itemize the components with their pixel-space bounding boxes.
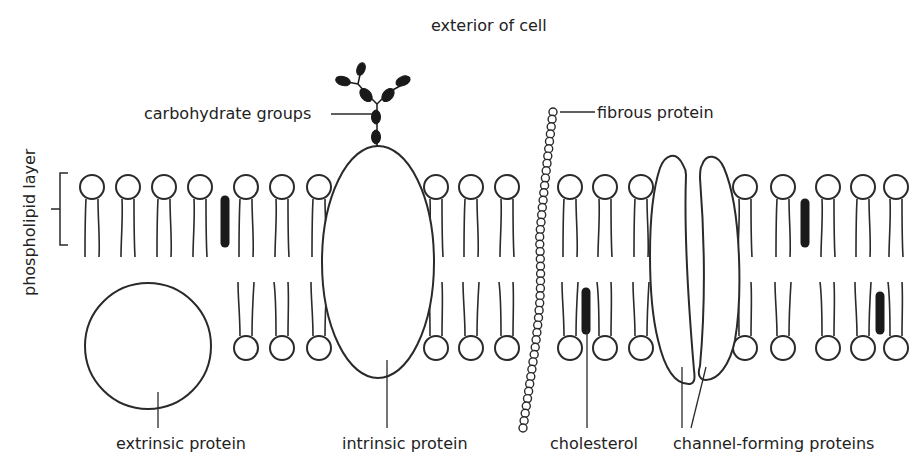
phospholipid-molecule <box>629 282 653 360</box>
extrinsic-protein-shape <box>85 283 211 409</box>
label-fibrous-protein: fibrous protein <box>597 103 714 123</box>
carbohydrate-groups-shape <box>335 62 412 146</box>
phospholipid-molecule <box>459 282 483 360</box>
phospholipid-molecule <box>851 175 875 257</box>
phospholipid-molecule <box>152 175 176 257</box>
phospholipid-molecule <box>495 175 519 257</box>
phospholipid-molecule <box>270 175 294 257</box>
phospholipid-bracket <box>51 173 68 245</box>
cell-membrane-diagram <box>0 0 919 476</box>
phospholipid-molecule <box>816 175 840 257</box>
label-phospholipid-layer: phospholipid layer <box>20 149 40 296</box>
phospholipid-molecule <box>188 175 212 257</box>
phospholipid-molecule <box>234 282 258 360</box>
phospholipid-molecule <box>771 282 795 360</box>
phospholipid-molecule <box>816 282 840 360</box>
label-carbohydrate-groups: carbohydrate groups <box>144 104 311 124</box>
phospholipid-molecule <box>558 175 582 257</box>
phospholipid-molecule <box>884 282 908 360</box>
channel-protein-left <box>650 156 695 384</box>
phospholipid-top-layer <box>80 175 908 257</box>
phospholipid-molecule <box>884 175 908 257</box>
fibrous-protein-shape <box>519 108 557 432</box>
phospholipid-molecule <box>80 175 104 257</box>
phospholipid-molecule <box>558 282 582 360</box>
phospholipid-molecule <box>771 175 795 257</box>
label-intrinsic-protein: intrinsic protein <box>342 434 468 454</box>
phospholipid-molecule <box>459 175 483 257</box>
phospholipid-molecule <box>270 282 294 360</box>
phospholipid-molecule <box>495 282 519 360</box>
intrinsic-protein-shape <box>322 146 434 378</box>
label-extrinsic-protein: extrinsic protein <box>116 434 246 454</box>
phospholipid-molecule <box>851 282 875 360</box>
phospholipid-molecule <box>593 175 617 257</box>
phospholipid-molecule <box>593 282 617 360</box>
phospholipid-molecule <box>116 175 140 257</box>
label-cholesterol: cholesterol <box>550 434 638 454</box>
label-channel-forming-proteins: channel-forming proteins <box>673 434 874 454</box>
title-exterior-of-cell: exterior of cell <box>431 16 547 36</box>
phospholipid-molecule <box>234 175 258 257</box>
